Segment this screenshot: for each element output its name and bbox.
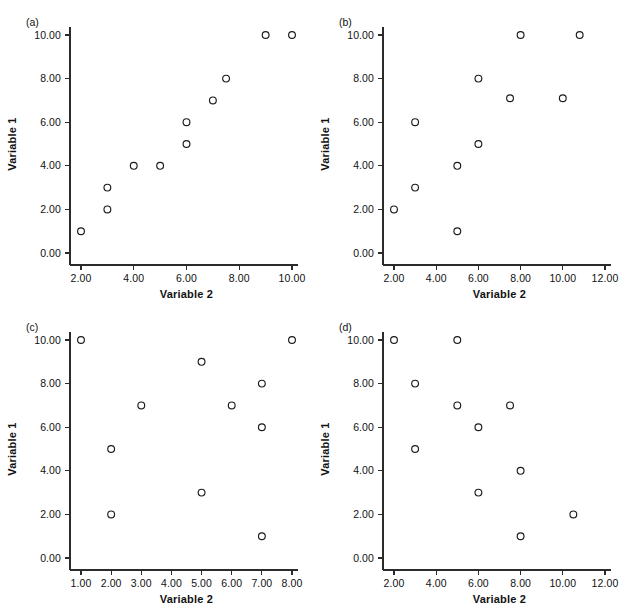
y-axis-title: Variable 1 bbox=[6, 117, 18, 170]
x-tick-label: 1.00 bbox=[71, 577, 92, 589]
y-tick-label: 2.00 bbox=[353, 508, 374, 520]
y-axis-title: Variable 1 bbox=[6, 422, 18, 475]
data-point-marker bbox=[576, 32, 583, 39]
x-tick-label: 8.00 bbox=[282, 577, 303, 589]
data-point-marker bbox=[104, 184, 111, 191]
panel-d: 0.002.004.006.008.0010.002.004.006.008.0… bbox=[313, 305, 626, 610]
data-point-marker bbox=[475, 424, 482, 431]
data-point-marker bbox=[108, 446, 115, 453]
x-tick-label: 10.00 bbox=[549, 577, 576, 589]
y-tick-label: 4.00 bbox=[40, 464, 61, 476]
data-point-marker bbox=[517, 32, 524, 39]
y-tick-label: 8.00 bbox=[40, 72, 61, 84]
x-axis-title: Variable 2 bbox=[473, 593, 526, 605]
x-tick-label: 6.00 bbox=[221, 577, 242, 589]
y-tick-label: 6.00 bbox=[353, 421, 374, 433]
x-tick-label: 4.00 bbox=[426, 577, 447, 589]
panel-letter-label: (c) bbox=[26, 321, 38, 333]
y-tick-label: 2.00 bbox=[353, 203, 374, 215]
panel-a: 0.002.004.006.008.0010.002.004.006.008.0… bbox=[0, 0, 313, 305]
y-axis-title: Variable 1 bbox=[319, 117, 331, 170]
data-point-marker bbox=[454, 228, 461, 235]
data-point-marker bbox=[198, 489, 205, 496]
y-tick-label: 0.00 bbox=[353, 247, 374, 259]
panel-c-plot: 0.002.004.006.008.0010.001.002.003.004.0… bbox=[0, 305, 313, 610]
data-point-marker bbox=[454, 402, 461, 409]
x-tick-label: 8.00 bbox=[510, 577, 531, 589]
x-tick-label: 7.00 bbox=[251, 577, 272, 589]
data-point-marker bbox=[262, 32, 269, 39]
data-point-marker bbox=[391, 337, 398, 344]
y-tick-label: 4.00 bbox=[353, 464, 374, 476]
data-point-marker bbox=[258, 424, 265, 431]
y-tick-label: 2.00 bbox=[40, 203, 61, 215]
x-tick-label: 6.00 bbox=[468, 272, 489, 284]
y-tick-label: 10.00 bbox=[347, 334, 374, 346]
data-point-marker bbox=[475, 75, 482, 82]
data-point-marker bbox=[78, 337, 85, 344]
data-point-marker bbox=[475, 141, 482, 148]
x-tick-label: 4.00 bbox=[426, 272, 447, 284]
x-tick-label: 4.00 bbox=[123, 272, 144, 284]
panel-c: 0.002.004.006.008.0010.001.002.003.004.0… bbox=[0, 305, 313, 610]
data-point-marker bbox=[183, 119, 190, 126]
data-point-marker bbox=[228, 402, 235, 409]
y-tick-label: 4.00 bbox=[353, 159, 374, 171]
scatterplot-figure: 0.002.004.006.008.0010.002.004.006.008.0… bbox=[0, 0, 626, 610]
x-tick-label: 2.00 bbox=[71, 272, 92, 284]
data-point-marker bbox=[454, 337, 461, 344]
x-tick-label: 10.00 bbox=[279, 272, 306, 284]
data-point-marker bbox=[108, 511, 115, 518]
x-tick-label: 8.00 bbox=[229, 272, 250, 284]
x-axis-title: Variable 2 bbox=[160, 288, 213, 300]
data-point-marker bbox=[517, 467, 524, 474]
panel-a-plot: 0.002.004.006.008.0010.002.004.006.008.0… bbox=[0, 0, 313, 305]
panel-d-plot: 0.002.004.006.008.0010.002.004.006.008.0… bbox=[313, 305, 626, 610]
data-point-marker bbox=[289, 32, 296, 39]
panel-letter-label: (a) bbox=[26, 16, 39, 28]
x-tick-label: 12.00 bbox=[592, 577, 619, 589]
data-point-marker bbox=[517, 533, 524, 540]
x-tick-label: 2.00 bbox=[384, 577, 405, 589]
x-tick-label: 2.00 bbox=[384, 272, 405, 284]
data-point-marker bbox=[289, 337, 296, 344]
data-point-marker bbox=[198, 358, 205, 365]
y-tick-label: 8.00 bbox=[40, 377, 61, 389]
data-point-marker bbox=[507, 95, 514, 102]
data-point-marker bbox=[223, 75, 230, 82]
x-tick-label: 10.00 bbox=[549, 272, 576, 284]
y-tick-label: 8.00 bbox=[353, 72, 374, 84]
y-tick-label: 6.00 bbox=[40, 421, 61, 433]
data-point-marker bbox=[412, 446, 419, 453]
data-point-marker bbox=[412, 184, 419, 191]
y-tick-label: 10.00 bbox=[34, 29, 61, 41]
panel-letter-label: (d) bbox=[339, 321, 352, 333]
x-axis-title: Variable 2 bbox=[473, 288, 526, 300]
data-point-marker bbox=[78, 228, 85, 235]
x-tick-label: 4.00 bbox=[161, 577, 182, 589]
data-point-marker bbox=[412, 380, 419, 387]
y-tick-label: 6.00 bbox=[353, 116, 374, 128]
data-point-marker bbox=[258, 380, 265, 387]
y-tick-label: 4.00 bbox=[40, 159, 61, 171]
y-tick-label: 10.00 bbox=[34, 334, 61, 346]
data-point-marker bbox=[130, 162, 137, 169]
y-tick-label: 0.00 bbox=[40, 247, 61, 259]
y-tick-label: 0.00 bbox=[40, 552, 61, 564]
data-point-marker bbox=[183, 141, 190, 148]
panel-letter-label: (b) bbox=[339, 16, 352, 28]
data-point-marker bbox=[209, 97, 216, 104]
x-tick-label: 3.00 bbox=[131, 577, 152, 589]
data-point-marker bbox=[570, 511, 577, 518]
panel-b-plot: 0.002.004.006.008.0010.002.004.006.008.0… bbox=[313, 0, 626, 305]
data-point-marker bbox=[507, 402, 514, 409]
panel-b: 0.002.004.006.008.0010.002.004.006.008.0… bbox=[313, 0, 626, 305]
y-tick-label: 10.00 bbox=[347, 29, 374, 41]
data-point-marker bbox=[138, 402, 145, 409]
x-tick-label: 6.00 bbox=[176, 272, 197, 284]
data-point-marker bbox=[391, 206, 398, 213]
y-axis-title: Variable 1 bbox=[319, 422, 331, 475]
data-point-marker bbox=[559, 95, 566, 102]
y-tick-label: 8.00 bbox=[353, 377, 374, 389]
x-tick-label: 6.00 bbox=[468, 577, 489, 589]
